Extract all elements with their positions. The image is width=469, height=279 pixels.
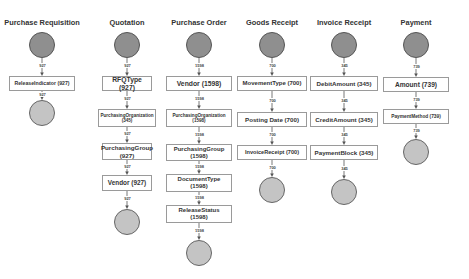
end-node[interactable] [29,100,55,126]
attribute-node[interactable]: InvoiceReceipt (700) [237,145,307,160]
attribute-node[interactable]: PurchasingGroup (927) [102,143,152,160]
edge-count-label: 739 [413,97,420,102]
attribute-node[interactable]: PaymentBlock (345) [310,145,378,160]
edge-count-label: 345 [341,63,348,68]
edge-count-label: 345 [341,166,348,171]
lane-title: Quotation [110,18,145,27]
lane-title: Invoice Receipt [317,18,371,27]
edge-count-label: 927 [39,92,46,97]
lane-title: Purchase Requisition [4,18,80,27]
end-node[interactable] [403,139,429,165]
edge-count-label: 700 [269,98,276,103]
start-node[interactable] [259,32,285,58]
attribute-node[interactable]: PurchasingGroup (1598) [166,144,232,161]
edge-count-label: 700 [269,132,276,137]
start-node[interactable] [186,32,212,58]
edge-count-label: 927 [124,131,131,136]
attribute-node[interactable]: PurchasingOrganization (1598) [166,109,232,127]
attribute-node[interactable]: RFQType (927) [102,76,152,91]
attribute-node[interactable]: Vendor (1598) [166,76,232,91]
lane-title: Goods Receipt [246,18,298,27]
edge-count-label: 700 [269,165,276,170]
edge-count-label: 345 [341,98,348,103]
attribute-node[interactable]: Amount (739) [383,77,449,92]
edge-count-label: 1598 [195,228,204,233]
edge-count-label: 1598 [195,96,204,101]
edge-count-label: 927 [124,164,131,169]
end-node[interactable] [186,240,212,266]
lane-title: Payment [401,18,432,27]
edge-count-label: 1598 [195,63,204,68]
start-node[interactable] [114,32,140,58]
attribute-node[interactable]: CreditAmount (345) [310,112,378,127]
attribute-node[interactable]: Posting Date (700) [237,112,307,127]
end-node[interactable] [331,179,357,205]
start-node[interactable] [29,32,55,58]
end-node[interactable] [114,209,140,235]
edge-count-label: 739 [413,128,420,133]
edge-count-label: 1598 [195,164,204,169]
edge-count-label: 927 [124,96,131,101]
lane-title: Purchase Order [171,18,226,27]
attribute-node[interactable]: DebitAmount (345) [310,76,378,91]
attribute-node[interactable]: PaymentMethod (739) [383,109,449,124]
start-node[interactable] [403,32,429,58]
edge-count-label: 1598 [195,195,204,200]
attribute-node[interactable]: DocumentType (1598) [166,174,232,192]
edge-count-label: 700 [269,63,276,68]
edge-count-label: 739 [413,64,420,69]
attribute-node[interactable]: MovementType (700) [237,76,307,91]
edge-count-label: 927 [39,63,46,68]
edge-count-label: 927 [124,196,131,201]
edge-count-label: 927 [124,63,131,68]
attribute-node[interactable]: ReleaseStatus (1598) [166,205,232,223]
attribute-node[interactable]: PurchasingOrganization (345) [98,109,156,127]
edge-count-label: 1598 [195,132,204,137]
attribute-node[interactable]: ReleaseIndicator (927) [9,76,75,91]
process-flow-diagram: Purchase Requisition927ReleaseIndicator … [0,0,469,279]
end-node[interactable] [259,177,285,203]
edges-layer [0,0,469,279]
attribute-node[interactable]: Vendor (927) [102,175,152,191]
edge-count-label: 345 [341,132,348,137]
start-node[interactable] [331,32,357,58]
